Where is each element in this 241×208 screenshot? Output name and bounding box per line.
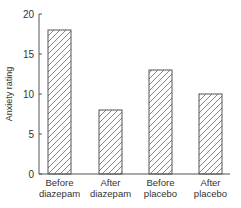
y-tick-label: 0: [28, 169, 34, 180]
y-tick-label: 15: [23, 49, 35, 60]
x-category-label: After: [100, 177, 120, 188]
x-category-label: placebo: [194, 188, 227, 199]
x-axis: BeforediazepamAfterdiazepamBeforeplacebo…: [39, 174, 230, 199]
y-tick-label: 5: [28, 129, 34, 140]
x-category-label: After: [200, 177, 220, 188]
y-axis-title: Anxiety rating: [4, 67, 14, 122]
bar-after-placebo: [199, 94, 222, 174]
bar-before-placebo: [149, 70, 172, 174]
bar-chart: 05101520 BeforediazepamAfterdiazepamBefo…: [0, 0, 241, 208]
x-category-label: placebo: [144, 188, 177, 199]
bars: [48, 30, 222, 174]
y-tick-label: 10: [23, 89, 35, 100]
y-axis: 05101520: [23, 9, 42, 180]
bar-before-diazepam: [48, 30, 71, 174]
x-category-label: diazepam: [39, 188, 80, 199]
x-category-label: diazepam: [90, 188, 131, 199]
x-category-label: Before: [147, 177, 175, 188]
x-category-label: Before: [46, 177, 74, 188]
bar-after-diazepam: [99, 110, 122, 174]
y-tick-label: 20: [23, 9, 35, 20]
